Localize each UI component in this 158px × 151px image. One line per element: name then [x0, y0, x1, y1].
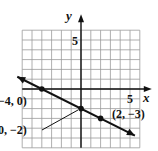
point-label-2-neg3: (2, −3) [112, 107, 145, 121]
y-axis-arrow-icon [78, 14, 84, 22]
point-label-neg4-0: −4, 0) [0, 94, 27, 108]
y-axis-label: y [64, 8, 72, 23]
data-point [39, 86, 45, 92]
x-tick-5: 5 [127, 92, 133, 106]
point-label-0-neg2: 0, −2) [0, 123, 27, 137]
label-leader-line [42, 110, 78, 130]
data-point [98, 116, 104, 122]
x-axis-label: x [142, 90, 150, 105]
y-tick-5: 5 [72, 34, 78, 48]
data-point [78, 106, 84, 112]
coordinate-plane: y x 5 5 −4, 0) 0, −2) (2, −3) [0, 0, 158, 151]
